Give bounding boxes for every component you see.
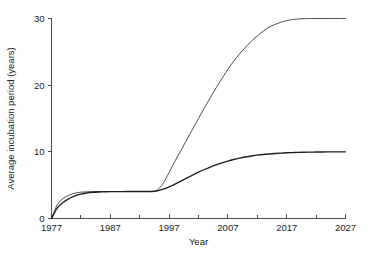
x-tick-label-2007: 2007	[217, 222, 238, 233]
series-upper-curve	[52, 18, 346, 218]
series-lower-curve	[52, 152, 346, 219]
data-series-group	[52, 18, 346, 218]
x-tick-label-2027: 2027	[335, 222, 356, 233]
y-axis-title: Average incubation period (years)	[5, 47, 16, 189]
x-tick-label-1997: 1997	[159, 222, 180, 233]
x-tick-label-1987: 1987	[100, 222, 121, 233]
line-chart: 0102030 197719871997200720172027 YearAve…	[0, 0, 369, 257]
y-tick-label-30: 30	[34, 13, 45, 24]
x-axis: 197719871997200720172027	[41, 214, 356, 233]
x-tick-label-1977: 1977	[41, 222, 62, 233]
chart-figure: 0102030 197719871997200720172027 YearAve…	[0, 0, 369, 257]
y-axis: 0102030	[34, 13, 52, 224]
x-axis-title: Year	[189, 236, 208, 247]
x-tick-label-2017: 2017	[276, 222, 297, 233]
y-tick-label-10: 10	[34, 146, 45, 157]
y-tick-label-20: 20	[34, 80, 45, 91]
